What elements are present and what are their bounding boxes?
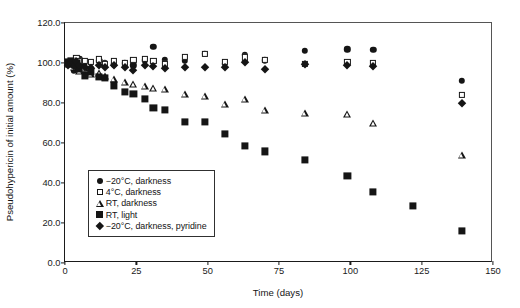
data-point xyxy=(262,57,268,63)
data-point xyxy=(161,86,169,93)
legend-label: −20°C, darkness xyxy=(106,176,171,186)
marker-filled-diamond-icon xyxy=(458,99,466,107)
y-tick-mark xyxy=(61,142,65,143)
marker-filled-square-icon xyxy=(110,82,117,89)
data-point xyxy=(459,100,465,106)
data-point xyxy=(121,78,129,85)
marker-open-triangle-icon xyxy=(241,96,249,103)
marker-open-square-icon xyxy=(97,189,103,195)
data-point xyxy=(301,48,307,54)
marker-filled-diamond-icon xyxy=(221,63,229,71)
marker-filled-circle-icon xyxy=(97,178,103,184)
y-tick-label: 20.0 xyxy=(42,218,60,228)
marker-filled-diamond-icon xyxy=(241,58,249,66)
y-tick-mark xyxy=(61,102,65,103)
marker-filled-diamond-icon xyxy=(110,61,118,69)
data-point xyxy=(149,84,157,91)
x-tick-mark xyxy=(492,261,493,265)
data-point xyxy=(181,91,189,98)
data-point xyxy=(150,43,156,49)
x-tick-label: 50 xyxy=(202,266,212,276)
legend-item: RT, light xyxy=(94,209,207,220)
y-tick-label: 100.0 xyxy=(37,58,60,68)
marker-filled-square-icon xyxy=(101,75,108,82)
y-tick-mark xyxy=(61,22,65,23)
marker-filled-diamond-icon xyxy=(161,64,169,72)
marker-filled-diamond-icon xyxy=(201,63,209,71)
marker-filled-circle-icon xyxy=(301,48,307,54)
data-point xyxy=(345,62,351,68)
marker-filled-square-icon xyxy=(241,143,248,150)
marker-filled-diamond-icon xyxy=(301,60,309,68)
legend-label: RT, light xyxy=(106,210,137,220)
marker-open-triangle-icon xyxy=(96,200,104,207)
y-tick-label: 120.0 xyxy=(37,18,60,28)
x-tick-mark xyxy=(350,261,351,265)
data-point xyxy=(370,188,377,195)
y-tick-label: 60.0 xyxy=(42,138,60,148)
data-point xyxy=(141,82,149,89)
marker-open-triangle-icon xyxy=(458,152,466,159)
data-point xyxy=(142,62,148,68)
y-tick-mark xyxy=(61,222,65,223)
marker-filled-diamond-icon xyxy=(87,64,95,72)
x-tick-mark xyxy=(278,261,279,265)
data-point xyxy=(242,59,248,65)
data-point xyxy=(111,62,117,68)
data-point xyxy=(201,119,208,126)
data-point xyxy=(181,119,188,126)
marker-filled-diamond-icon xyxy=(261,65,269,73)
legend-item: −20°C, darkness xyxy=(94,175,207,186)
data-point xyxy=(129,81,137,88)
data-point xyxy=(370,47,376,53)
marker-open-triangle-icon xyxy=(141,82,149,89)
marker-filled-diamond-icon xyxy=(101,63,109,71)
data-point xyxy=(262,66,268,72)
data-point xyxy=(131,67,137,73)
marker-filled-square-icon xyxy=(221,130,228,137)
legend: −20°C, darkness4°C, darknessRT, darkness… xyxy=(88,170,215,237)
legend-label: 4°C, darkness xyxy=(106,187,161,197)
data-point xyxy=(241,96,249,103)
marker-open-triangle-icon xyxy=(369,119,377,126)
data-point xyxy=(162,65,168,71)
data-point xyxy=(151,63,157,69)
marker-filled-circle-icon xyxy=(150,43,156,49)
legend-marker xyxy=(94,178,106,184)
figure: Pseudohypericin of initial amount (%) 0.… xyxy=(0,0,520,308)
marker-open-square-icon xyxy=(202,51,208,57)
data-point xyxy=(141,95,148,102)
plot-area: 0.020.040.060.080.0100.0120.0 0255075100… xyxy=(64,22,492,262)
data-point xyxy=(344,172,351,179)
data-point xyxy=(458,78,464,84)
data-point xyxy=(301,156,308,163)
y-axis-label: Pseudohypericin of initial amount (%) xyxy=(4,22,18,262)
data-point xyxy=(201,92,209,99)
data-point xyxy=(130,57,136,63)
data-point xyxy=(122,64,128,70)
legend-marker xyxy=(94,189,106,195)
marker-open-square-icon xyxy=(262,57,268,63)
marker-filled-diamond-icon xyxy=(149,62,157,70)
marker-open-triangle-icon xyxy=(343,110,351,117)
marker-open-triangle-icon xyxy=(261,106,269,113)
marker-open-square-icon xyxy=(130,57,136,63)
x-tick-label: 0 xyxy=(62,266,67,276)
data-point xyxy=(150,105,157,112)
data-point xyxy=(302,61,308,67)
data-point xyxy=(221,130,228,137)
data-point xyxy=(182,54,188,60)
data-point xyxy=(88,65,94,71)
data-point xyxy=(101,75,108,82)
marker-open-triangle-icon xyxy=(221,100,229,107)
marker-filled-diamond-icon xyxy=(369,62,377,70)
marker-filled-square-icon xyxy=(150,105,157,112)
marker-open-triangle-icon xyxy=(181,91,189,98)
marker-filled-square-icon xyxy=(370,188,377,195)
data-point xyxy=(202,51,208,57)
y-tick-mark xyxy=(61,182,65,183)
marker-filled-square-icon xyxy=(301,156,308,163)
x-tick-label: 125 xyxy=(414,266,430,276)
marker-filled-square-icon xyxy=(181,119,188,126)
marker-filled-circle-icon xyxy=(344,46,350,52)
